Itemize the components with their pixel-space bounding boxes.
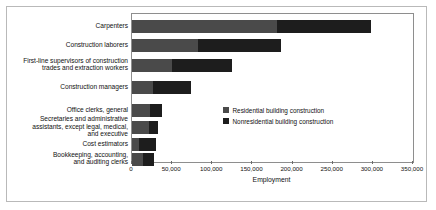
- x-tick: [211, 161, 212, 164]
- bar-segment: [132, 121, 149, 134]
- bar-segment: [132, 138, 139, 151]
- x-tick: [251, 161, 252, 164]
- x-tick-label: 0: [129, 165, 132, 172]
- legend-item-residential: Residential building construction: [223, 105, 333, 115]
- x-tick-label: 200,000: [280, 165, 302, 172]
- bar-segment: [132, 39, 198, 52]
- legend-label-nonresidential: Nonresidential building construction: [233, 118, 334, 125]
- x-tick-label: 100,000: [200, 165, 222, 172]
- bar-segment: [150, 104, 162, 117]
- chart-legend: Residential building construction Nonres…: [223, 105, 333, 127]
- bar-segment: [172, 59, 232, 72]
- category-label: Office clerks, general: [8, 106, 128, 114]
- plot-area: [131, 13, 414, 163]
- category-axis-labels: CarpentersConstruction laborersFirst-lin…: [8, 13, 128, 161]
- category-label: Bookkeeping, accounting,and auditing cle…: [8, 151, 128, 166]
- bar-segment: [277, 20, 372, 33]
- legend-label-residential: Residential building construction: [233, 107, 325, 114]
- category-label: Carpenters: [8, 22, 128, 30]
- bar-segment: [132, 59, 172, 72]
- bar-segment: [139, 138, 156, 151]
- category-label: Construction laborers: [8, 41, 128, 49]
- category-label: First-line supervisors of constructiontr…: [8, 57, 128, 72]
- category-label: Construction managers: [8, 83, 128, 91]
- legend-item-nonresidential: Nonresidential building construction: [223, 116, 333, 126]
- x-tick: [131, 161, 132, 164]
- x-tick: [332, 161, 333, 164]
- bar-segment: [132, 104, 150, 117]
- bar-segment: [149, 121, 159, 134]
- x-tick-label: 50,000: [162, 165, 181, 172]
- bar-segment: [143, 153, 154, 166]
- legend-swatch-nonresidential-icon: [223, 118, 229, 124]
- category-label: Secretaries and administrativeassistants…: [8, 115, 128, 138]
- x-tick: [372, 161, 373, 164]
- bar-segment: [132, 20, 277, 33]
- chart-figure: CarpentersConstruction laborersFirst-lin…: [0, 0, 436, 210]
- x-tick: [171, 161, 172, 164]
- legend-swatch-residential-icon: [223, 107, 229, 113]
- bar-segment: [198, 39, 281, 52]
- x-tick-label: 300,000: [361, 165, 383, 172]
- x-tick-label: 150,000: [240, 165, 262, 172]
- category-label: Cost estimators: [8, 140, 128, 148]
- x-tick: [412, 161, 413, 164]
- x-tick-label: 250,000: [321, 165, 343, 172]
- x-axis: 050,000100,000150,000200,000250,000300,0…: [131, 161, 412, 162]
- bar-segment: [132, 153, 143, 166]
- bar-segment: [153, 81, 191, 94]
- x-tick-label: 350,000: [401, 165, 423, 172]
- bar-segment: [132, 81, 153, 94]
- x-axis-title: Employment: [131, 176, 412, 183]
- x-tick: [292, 161, 293, 164]
